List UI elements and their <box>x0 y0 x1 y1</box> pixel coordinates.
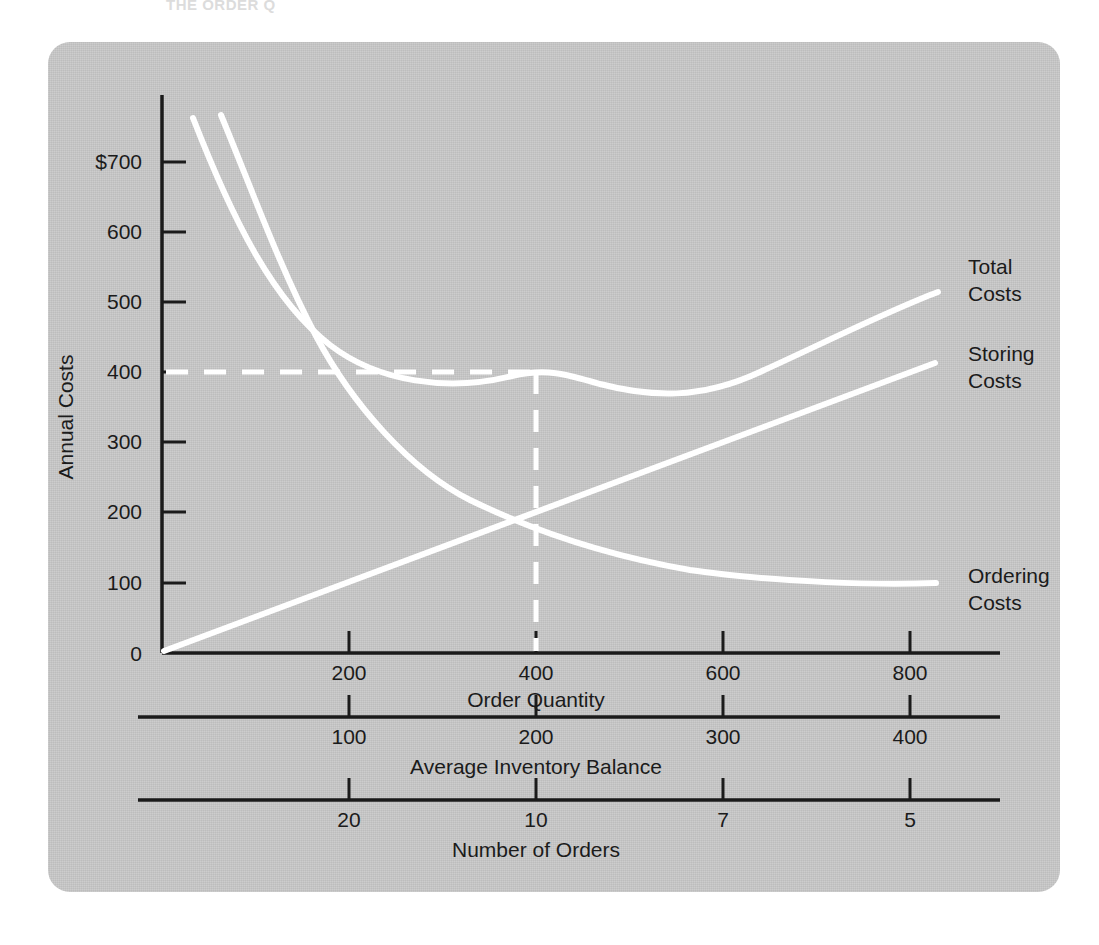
series-label-total-costs-line2: Costs <box>968 280 1022 307</box>
y-tick-label-700: $700 <box>50 150 142 174</box>
x-tick-label-200: 200 <box>319 661 379 685</box>
series-line-storing-costs <box>164 363 935 651</box>
y-tick-label-0: 0 <box>50 642 142 666</box>
series-label-ordering-costs-line2: Costs <box>968 589 1050 616</box>
x-tick-label-400: 400 <box>506 661 566 685</box>
series-label-storing-costs: Storing Costs <box>968 340 1035 394</box>
series-label-total-costs: Total Costs <box>968 253 1022 307</box>
orders-tick-label-10: 10 <box>506 808 566 832</box>
x-tick-label-800: 800 <box>880 661 940 685</box>
series-label-ordering-costs: Ordering Costs <box>968 562 1050 616</box>
optimal-quantity-marker <box>166 372 536 651</box>
orders-axis-title: Number of Orders <box>396 838 676 862</box>
inventory-tick-label-200: 200 <box>506 725 566 749</box>
series-label-storing-costs-line1: Storing <box>968 340 1035 367</box>
series-curve-total-costs <box>193 118 938 394</box>
x-axis-title: Order Quantity <box>416 688 656 712</box>
series-label-total-costs-line1: Total <box>968 253 1022 280</box>
orders-tick-label-7: 7 <box>693 808 753 832</box>
y-tick-label-100: 100 <box>50 571 142 595</box>
x-tick-label-600: 600 <box>693 661 753 685</box>
y-tick-label-600: 600 <box>50 220 142 244</box>
y-tick-label-500: 500 <box>50 290 142 314</box>
series-line-ordering-costs <box>221 115 936 584</box>
inventory-tick-label-300: 300 <box>693 725 753 749</box>
inventory-tick-label-100: 100 <box>319 725 379 749</box>
orders-tick-label-20: 20 <box>319 808 379 832</box>
orders-tick-label-5: 5 <box>880 808 940 832</box>
inventory-tick-label-400: 400 <box>880 725 940 749</box>
chart-canvas <box>0 0 1099 945</box>
secondary-axis-orders <box>138 778 1000 800</box>
y-axis-title: Annual Costs <box>54 327 78 507</box>
series-label-storing-costs-line2: Costs <box>968 367 1035 394</box>
series-label-ordering-costs-line1: Ordering <box>968 562 1050 589</box>
inventory-axis-title: Average Inventory Balance <box>356 755 716 779</box>
